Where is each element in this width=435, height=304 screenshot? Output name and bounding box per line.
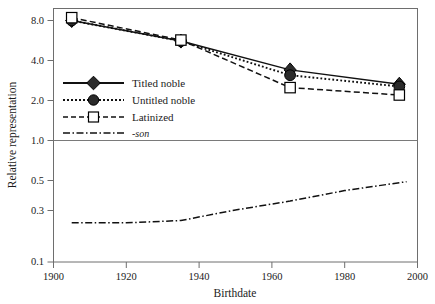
data-point-marker: [176, 35, 186, 45]
y-tick-label-8: 8.0: [31, 15, 44, 26]
circle-marker-icon: [88, 95, 98, 105]
legend-label-latinized: Latinized: [132, 111, 174, 123]
chart-plot-area: 8.0 4.0 2.0 1.0 0.5 0.3 0.1 Relative rep…: [0, 0, 435, 304]
series-latinized: [67, 12, 405, 100]
data-point-marker: [394, 90, 404, 100]
legend-entry-titled-noble[interactable]: Titled noble: [63, 76, 185, 90]
x-tick-label-1940: 1940: [189, 271, 210, 282]
legend: Titled noble Untitled noble Latinized -s…: [63, 76, 195, 139]
y-tick-label-03: 0.3: [31, 205, 44, 216]
legend-entry-latinized[interactable]: Latinized: [63, 111, 174, 123]
x-tick-label-1960: 1960: [261, 271, 282, 282]
y-axis: 8.0 4.0 2.0 1.0 0.5 0.3 0.1: [31, 15, 54, 267]
x-axis: 1900 1920 1940 1960 1980 2000: [43, 262, 428, 282]
plot-frame: [54, 9, 418, 263]
y-tick-label-2: 2.0: [31, 95, 44, 106]
legend-label-son: -son: [132, 128, 149, 139]
data-series-layer: [66, 12, 407, 222]
y-tick-label-4: 4.0: [31, 55, 44, 66]
chart-figure: 8.0 4.0 2.0 1.0 0.5 0.3 0.1 Relative rep…: [0, 0, 435, 304]
x-tick-label-1920: 1920: [116, 271, 137, 282]
legend-label-titled-noble: Titled noble: [132, 77, 185, 89]
data-point-marker: [285, 70, 296, 81]
data-point-marker: [285, 82, 295, 92]
y-tick-label-05: 0.5: [31, 175, 44, 186]
series-son: [72, 182, 407, 223]
legend-entry-son[interactable]: -son: [63, 128, 149, 139]
x-tick-label-1980: 1980: [334, 271, 355, 282]
data-point-marker: [67, 12, 77, 22]
y-tick-label-01: 0.1: [31, 256, 44, 267]
x-axis-title: Birthdate: [214, 287, 257, 299]
diamond-marker-icon: [87, 76, 101, 90]
series-line-0: [72, 21, 400, 85]
square-marker-icon: [89, 112, 99, 122]
y-axis-title: Relative representation: [6, 82, 19, 189]
y-tick-label-1: 1.0: [31, 135, 44, 146]
series-line-3: [72, 182, 407, 223]
series-titled-noble: [66, 14, 406, 92]
legend-entry-untitled-noble[interactable]: Untitled noble: [63, 94, 195, 106]
x-tick-label-2000: 2000: [407, 271, 428, 282]
x-tick-label-1900: 1900: [43, 271, 64, 282]
legend-label-untitled-noble: Untitled noble: [132, 94, 195, 106]
